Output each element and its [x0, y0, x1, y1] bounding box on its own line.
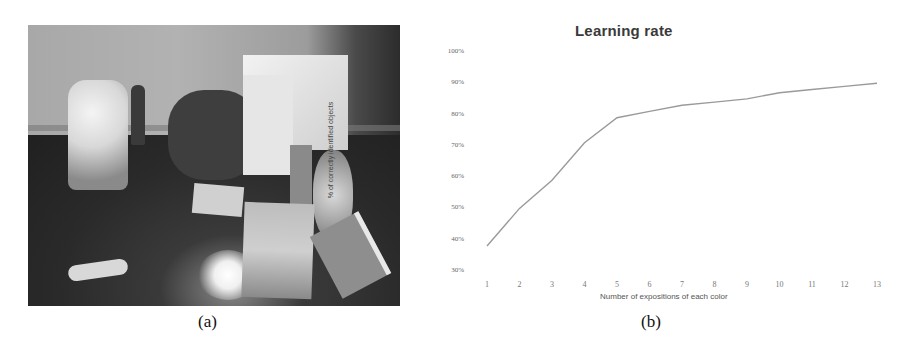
series-line: [487, 83, 877, 246]
caption-b: (b): [641, 312, 661, 332]
line-plot: [0, 0, 918, 352]
